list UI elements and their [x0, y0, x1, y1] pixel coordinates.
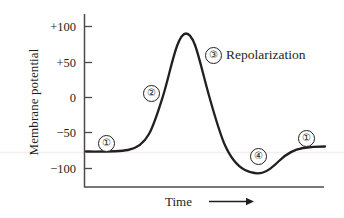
y-tick-label-minus100: −100	[36, 162, 76, 177]
time-arrow-icon	[209, 198, 254, 205]
y-axis-ticks	[85, 27, 93, 169]
phase-marker-4: ④	[250, 148, 267, 165]
phase-marker-1-left: ①	[98, 135, 115, 152]
phase-marker-3: ③	[205, 47, 222, 64]
y-tick-label-zero: 0	[36, 91, 76, 106]
x-axis-title: Time	[165, 194, 192, 210]
y-tick-label-plus100: +100	[36, 20, 76, 35]
phase-marker-2: ②	[143, 85, 160, 102]
repolarization-label: Repolarization	[226, 47, 305, 63]
phase-marker-1-right: ①	[298, 130, 315, 147]
y-tick-label-plus50: +50	[36, 56, 76, 71]
y-tick-label-minus50: −50	[36, 126, 76, 141]
action-potential-figure: Membrane potential +100 +50 0 −50 −100 ①…	[0, 0, 344, 218]
